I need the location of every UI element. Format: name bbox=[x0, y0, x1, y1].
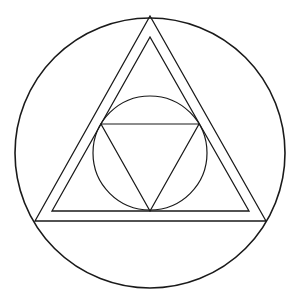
background bbox=[0, 0, 297, 307]
geometric-diagram bbox=[0, 0, 297, 307]
